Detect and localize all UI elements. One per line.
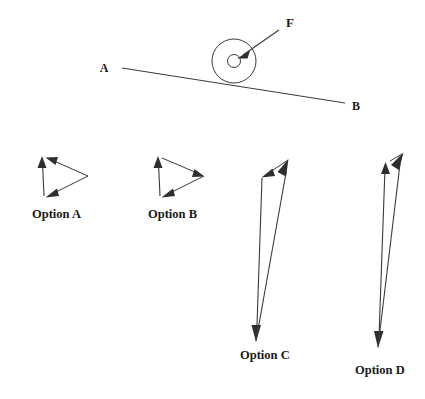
option-a-diagonal-shaft	[54, 176, 88, 193]
option-a-diagram: Option A	[32, 156, 88, 221]
option-d-label: Option D	[355, 363, 405, 377]
force-label-f: F	[286, 15, 294, 30]
wheel-hub-circle	[228, 55, 241, 68]
option-c-up-shaft	[256, 170, 287, 341]
option-a-vertical-arrowhead	[38, 156, 47, 168]
option-c-label: Option C	[240, 348, 290, 362]
option-b-label: Option B	[148, 207, 197, 221]
force-arrow-f	[237, 30, 279, 59]
option-c-up-arrowhead	[278, 159, 289, 177]
point-label-b: B	[352, 99, 360, 113]
option-d-up-shaft	[378, 164, 400, 347]
option-a-top-arrowhead	[46, 157, 59, 165]
force-arrow-shaft	[243, 30, 279, 55]
option-a-diagonal-arrowhead	[46, 189, 60, 198]
option-b-top-shaft	[162, 158, 196, 173]
figure-canvas: A B F Option A	[0, 0, 425, 399]
option-b-diagonal-arrowhead	[162, 189, 176, 198]
option-d-up-left-arrowhead	[381, 162, 390, 174]
option-d-diagram: Option D	[355, 153, 405, 378]
option-d-up-arrowhead	[391, 153, 404, 171]
incline-line	[122, 68, 345, 103]
option-b-diagram: Option B	[148, 156, 205, 221]
option-c-diagram: Option C	[240, 159, 290, 362]
wheel-outer-circle	[212, 39, 256, 83]
scene-wheel-on-incline: A B F	[100, 15, 360, 113]
option-b-vertical-arrowhead	[154, 156, 163, 168]
option-c-down-shaft	[257, 178, 262, 331]
point-label-a: A	[100, 61, 109, 75]
option-b-diagonal-shaft	[170, 176, 204, 193]
option-a-top-shaft	[54, 161, 88, 176]
option-b-top-arrowhead	[192, 169, 205, 177]
option-a-label: Option A	[32, 207, 81, 221]
